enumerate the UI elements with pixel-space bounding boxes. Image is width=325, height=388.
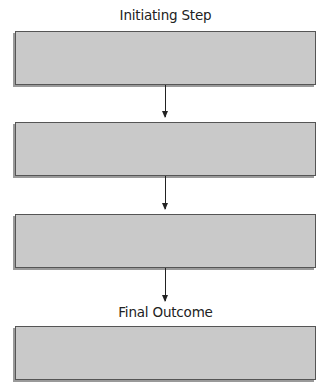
flow-box-2 bbox=[15, 122, 316, 176]
flow-box-4 bbox=[15, 326, 316, 380]
final-outcome-label: Final Outcome bbox=[0, 304, 325, 320]
initiating-step-label: Initiating Step bbox=[0, 7, 325, 23]
arrow-down-icon bbox=[165, 268, 166, 301]
arrow-down-icon bbox=[165, 85, 166, 117]
arrow-down-icon bbox=[165, 176, 166, 209]
flow-box-1 bbox=[15, 31, 316, 85]
flow-box-3 bbox=[15, 214, 316, 268]
